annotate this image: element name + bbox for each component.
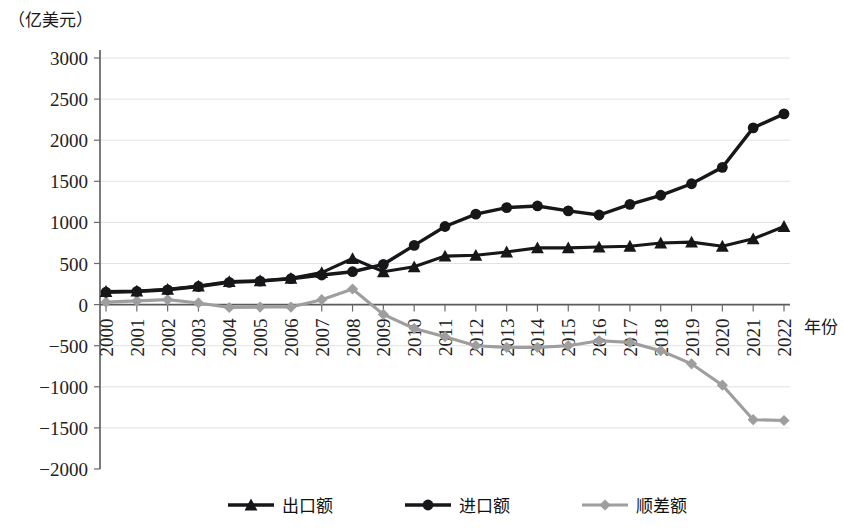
y-axis-tick-label: 2500 [50,89,88,110]
data-point-marker [316,270,327,281]
series-2 [101,108,790,297]
legend-item-3[interactable]: 顺差额 [582,496,687,516]
data-point-marker [162,294,173,305]
data-point-marker [316,294,327,305]
y-axis-tick-label: 3000 [50,48,88,69]
x-axis-tick-label: 2004 [219,318,240,357]
x-axis-tick-label: 2001 [127,319,148,357]
y-axis-tick-label: 500 [60,254,89,275]
x-axis-tick-label: 2003 [188,319,209,357]
data-point-marker [423,500,434,511]
data-point-marker [193,281,204,292]
legend-item-2[interactable]: 进口额 [405,496,510,516]
data-point-marker [599,499,610,510]
data-point-marker [162,284,173,295]
data-point-marker [470,209,481,220]
data-point-marker [778,220,791,232]
line-chart: 300025002000150010005000−500−1000−1500−2… [0,0,844,528]
data-point-marker [501,202,512,213]
y-axis-tick-label: 1500 [50,171,88,192]
data-point-marker [131,286,142,297]
data-point-marker [748,122,759,133]
y-axis-tick-label: 2000 [50,130,88,151]
data-point-marker [100,297,111,308]
data-point-marker [778,415,789,426]
chart-legend: 出口额进口额顺差额 [228,496,687,516]
x-axis-tick-label: 2019 [682,319,703,357]
data-point-marker [779,108,790,119]
data-point-marker [193,297,204,308]
x-axis-tick-label: 2008 [343,319,364,357]
y-axis-tick-label: −2000 [39,459,88,480]
data-point-marker [224,277,235,288]
x-axis-tick-label: 2000 [96,319,117,357]
x-axis-tick-label: 2015 [558,319,579,357]
legend-item-1[interactable]: 出口额 [228,496,333,516]
data-point-marker [378,259,389,270]
x-axis-tick-label: 2006 [281,319,302,357]
y-axis-tick-label: 1000 [50,212,88,233]
data-point-marker [224,302,235,313]
data-point-marker [686,178,697,189]
data-point-marker [286,273,297,284]
x-axis-tick-label: 2005 [250,319,271,357]
y-axis-tick-labels: 300025002000150010005000−500−1000−1500−2… [39,48,88,480]
data-point-marker [440,221,451,232]
data-series-layer [100,108,791,426]
y-axis-unit-label: （亿美元） [8,10,93,30]
data-point-marker [285,301,296,312]
y-axis-tick-label: −1500 [39,418,88,439]
data-point-marker [409,240,420,251]
x-axis-tick-label: 2021 [743,319,764,357]
x-axis-tick-label: 2020 [712,319,733,357]
data-point-marker [655,190,666,201]
data-point-marker [255,276,266,287]
y-axis-tick-label: −1000 [39,377,88,398]
x-axis-title: 年份 [804,317,838,337]
data-point-marker [347,266,358,277]
legend-label: 进口额 [459,496,510,516]
chart-container: 300025002000150010005000−500−1000−1500−2… [0,0,844,528]
data-point-marker [717,162,728,173]
x-axis-tick-label: 2007 [312,319,333,357]
x-axis-tick-label: 2022 [774,319,795,357]
legend-label: 顺差额 [636,496,687,516]
data-point-marker [625,199,636,210]
data-point-marker [594,210,605,221]
x-axis-tick-label: 2012 [466,319,487,357]
data-point-marker [101,287,112,298]
data-point-marker [346,252,359,264]
x-axis-tick-label: 2002 [158,319,179,357]
y-axis-tick-label: −500 [49,336,88,357]
data-point-marker [254,301,265,312]
x-axis-tick-label: 2009 [373,319,394,357]
data-point-marker [532,201,543,212]
y-axis-tick-label: 0 [79,295,89,316]
data-point-marker [563,205,574,216]
legend-label: 出口额 [282,496,333,516]
